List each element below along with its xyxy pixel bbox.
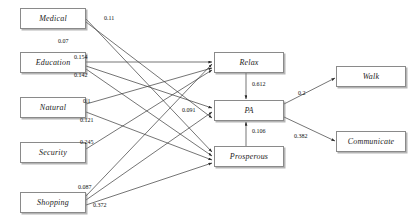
edge-pa-walk — [284, 78, 335, 104]
path-diagram: Medical Education Natural Security Shopp… — [0, 0, 414, 224]
node-shopping[interactable]: Shopping — [20, 192, 86, 213]
edge-shopping-prosperous — [86, 163, 212, 205]
node-pa[interactable]: PA — [214, 100, 284, 121]
node-label: Shopping — [37, 198, 69, 207]
coefficient-label: 0.087 — [78, 184, 92, 190]
node-label: Communicate — [348, 137, 395, 146]
coefficient-label: 0.372 — [93, 202, 107, 208]
edge-medical-prosperous — [86, 19, 212, 152]
coefficient-label: 0.142 — [74, 72, 88, 78]
coefficient-label: 0.612 — [252, 81, 266, 87]
coefficient-label: 0.1 — [83, 98, 91, 104]
edge-medical-relax — [86, 22, 212, 118]
node-label: Prosperous — [230, 152, 268, 161]
node-label: Security — [39, 148, 67, 157]
edge-shopping-relax — [86, 64, 212, 196]
coefficient-label: 0.121 — [80, 117, 94, 123]
coefficient-label: 0.11 — [104, 15, 114, 21]
node-relax[interactable]: Relax — [214, 52, 284, 73]
edge-shopping-pa — [86, 112, 212, 200]
node-label: Education — [36, 58, 71, 67]
edge-pa-communicate — [284, 117, 335, 141]
coefficient-label: 0.106 — [252, 128, 266, 134]
node-label: PA — [244, 106, 253, 115]
node-label: Relax — [239, 58, 258, 67]
coefficient-label: 0.154 — [74, 54, 88, 60]
node-natural[interactable]: Natural — [20, 97, 86, 118]
node-label: Natural — [40, 103, 66, 112]
edge-natural-prosperous — [86, 112, 212, 160]
coefficient-label: 0.07 — [58, 38, 69, 44]
coefficient-label: 0.245 — [80, 139, 94, 145]
coefficient-label: 0.091 — [182, 107, 196, 113]
coefficient-label: 0.382 — [294, 133, 308, 139]
node-medical[interactable]: Medical — [20, 8, 86, 29]
edge-natural-relax — [86, 68, 212, 104]
edge-education-pa — [86, 66, 212, 108]
node-walk[interactable]: Walk — [336, 66, 406, 87]
node-communicate[interactable]: Communicate — [336, 131, 406, 152]
node-label: Medical — [39, 14, 67, 23]
node-security[interactable]: Security — [20, 142, 86, 163]
coefficient-label: 0.2 — [298, 90, 306, 96]
node-prosperous[interactable]: Prosperous — [214, 146, 284, 167]
node-label: Walk — [363, 72, 380, 81]
